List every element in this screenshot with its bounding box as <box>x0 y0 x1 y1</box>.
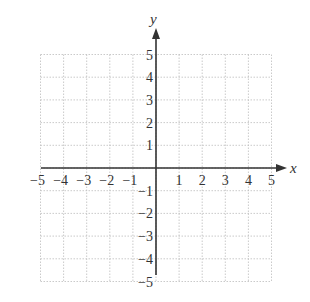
x-tick-label: −3 <box>76 173 91 188</box>
x-tick-label: −4 <box>53 173 68 188</box>
x-tick-label: 1 <box>176 173 183 188</box>
y-tick-label: 1 <box>146 138 153 153</box>
x-tick-label: 3 <box>222 173 229 188</box>
y-tick-label: 4 <box>146 70 153 85</box>
x-tick-label: 5 <box>268 173 275 188</box>
y-tick-label: −3 <box>138 229 153 244</box>
coordinate-plane: x y −5−4−3−2−112345 −5−4−3−2−112345 <box>0 0 310 302</box>
x-tick-label: −1 <box>122 173 137 188</box>
x-tick-label: 2 <box>199 173 206 188</box>
x-tick-label: 4 <box>245 173 252 188</box>
y-tick-label: −4 <box>138 252 153 267</box>
x-tick-label: −2 <box>99 173 114 188</box>
x-axis-arrow-icon <box>276 164 287 172</box>
y-tick-label: 5 <box>146 48 153 63</box>
axes <box>41 28 287 275</box>
y-axis-label: y <box>148 11 157 27</box>
y-tick-label: 3 <box>146 93 153 108</box>
x-axis-label: x <box>289 160 297 176</box>
y-axis-arrow-icon <box>152 28 160 39</box>
y-tick-label: −2 <box>138 206 153 221</box>
x-tick-label: −5 <box>30 173 45 188</box>
y-tick-label: −1 <box>138 184 153 199</box>
y-tick-label: −5 <box>138 275 153 290</box>
y-tick-label: 2 <box>146 116 153 131</box>
